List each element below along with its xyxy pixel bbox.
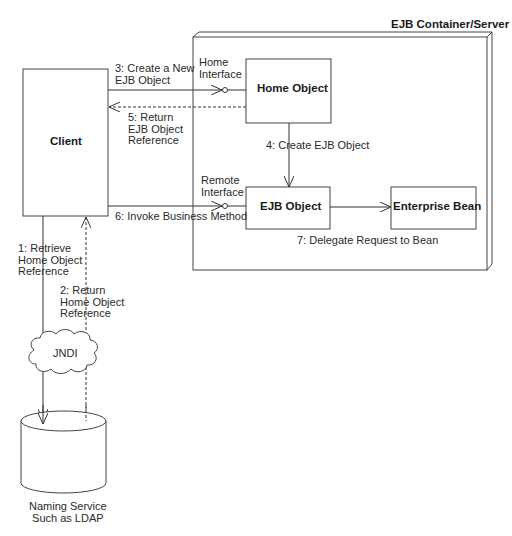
remote-interface-label: Remote Interface	[201, 175, 244, 198]
jndi-label: JNDI	[53, 348, 77, 360]
enterprise-bean-label: Enterprise Bean	[393, 201, 481, 213]
container-title: EJB Container/Server	[391, 19, 509, 31]
message-4-label: 4: Create EJB Object	[266, 140, 369, 152]
remote-interface-lollipop-icon	[223, 204, 228, 209]
home-interface-lollipop-icon	[223, 88, 228, 93]
message-5-label: 5: Return EJB Object Reference	[128, 112, 183, 147]
client-label: Client	[50, 136, 82, 148]
message-2-label: 2: Return Home Object Reference	[60, 285, 124, 320]
message-6-label: 6: Invoke Business Method	[115, 211, 247, 223]
message-3-label: 3: Create a New EJB Object	[115, 63, 194, 86]
home-object-label: Home Object	[257, 83, 328, 95]
naming-service-label: Naming Service Such as LDAP	[29, 501, 107, 524]
message-1-label: 1: Retrieve Home Object Reference	[18, 243, 82, 278]
naming-service-cylinder-icon	[21, 411, 106, 493]
ejb-object-label: EJB Object	[260, 201, 321, 213]
message-7-label: 7: Delegate Request to Bean	[297, 235, 438, 247]
home-interface-label: Home Interface	[199, 57, 242, 80]
